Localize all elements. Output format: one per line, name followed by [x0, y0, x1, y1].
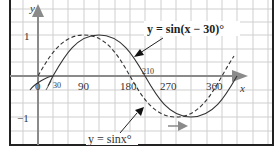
- x-tick-180: 180: [120, 80, 137, 92]
- pointer-line-sin-x: [120, 113, 137, 133]
- x-tick-30: 30: [53, 81, 61, 90]
- shift-arrow: [168, 121, 188, 131]
- label-sin-x-minus-30: y = sin(x − 30)°: [147, 22, 224, 36]
- y-axis-label: y: [29, 2, 35, 14]
- tick-30-pointer: [46, 81, 51, 90]
- x-tick-210: 210: [142, 67, 154, 76]
- x-tick-90: 90: [78, 80, 90, 92]
- sine-graph-diagram: y x 1 −1 0 30 90 180 210 270 360 y = sin…: [0, 0, 280, 160]
- y-tick-1: 1: [24, 30, 30, 42]
- pointer-arrow-icon: [135, 107, 144, 116]
- x-tick-360: 360: [206, 80, 223, 92]
- x-tick-270: 270: [160, 80, 177, 92]
- right-arrow-icon: [178, 121, 188, 131]
- y-tick-neg1: −1: [17, 112, 29, 124]
- label-sin-x: y = sinx°: [88, 132, 132, 146]
- x-tick-0: 0: [35, 80, 41, 92]
- pointer-arrow-icon: [134, 49, 144, 57]
- x-axis-label: x: [239, 82, 245, 94]
- pointer-line-sin-x-minus-30: [140, 38, 163, 53]
